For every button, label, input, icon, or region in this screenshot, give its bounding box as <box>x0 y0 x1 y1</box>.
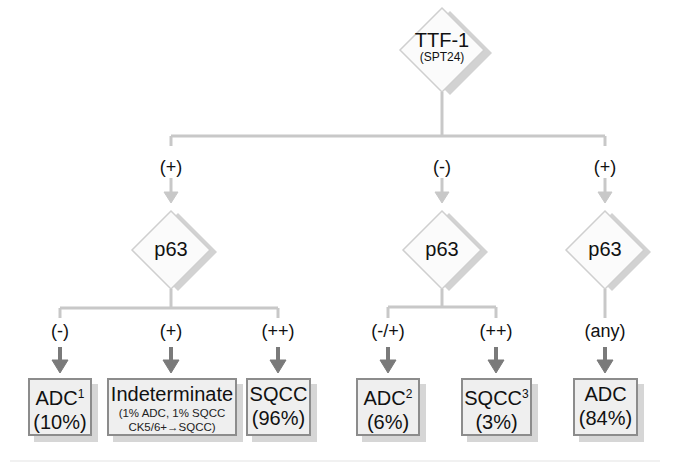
edge-label-p63-neg: (-) <box>20 321 100 342</box>
leaf-sqcc-96: SQCC (96%) <box>246 378 311 436</box>
root-subtitle: (SPT24) <box>402 51 482 64</box>
root-title: TTF-1 <box>402 30 482 51</box>
leaf-adc-6: ADC2 (6%) <box>356 378 420 436</box>
leaf-sqcc-3: SQCC3 (3%) <box>461 378 532 436</box>
edge-label-ttf1-pos-right: (+) <box>565 157 645 178</box>
edge-label-p63-strong-mid: (++) <box>456 321 536 342</box>
p63-node-left: p63 <box>131 239 211 260</box>
p63-node-right: p63 <box>565 239 645 260</box>
dark-arrows <box>52 347 613 373</box>
leaf-adc-10: ADC1 (10%) <box>28 378 92 436</box>
leaf-indeterminate: Indeterminate (1% ADC, 1% SQCC CK5/6+→SQ… <box>107 378 237 436</box>
light-arrows <box>164 178 612 203</box>
edge-label-ttf1-pos-left: (+) <box>131 157 211 178</box>
leaf-adc-84: ADC (84%) <box>573 378 638 436</box>
edge-label-p63-strong: (++) <box>238 321 318 342</box>
p63-node-middle: p63 <box>402 239 482 260</box>
edge-label-p63-pos: (+) <box>131 321 211 342</box>
root-node-ttf1: TTF-1 (SPT24) <box>402 30 482 64</box>
edge-label-p63-any: (any) <box>565 321 645 342</box>
edge-label-ttf1-neg: (-) <box>402 157 482 178</box>
edge-label-p63-negpos: (-/+) <box>348 321 428 342</box>
